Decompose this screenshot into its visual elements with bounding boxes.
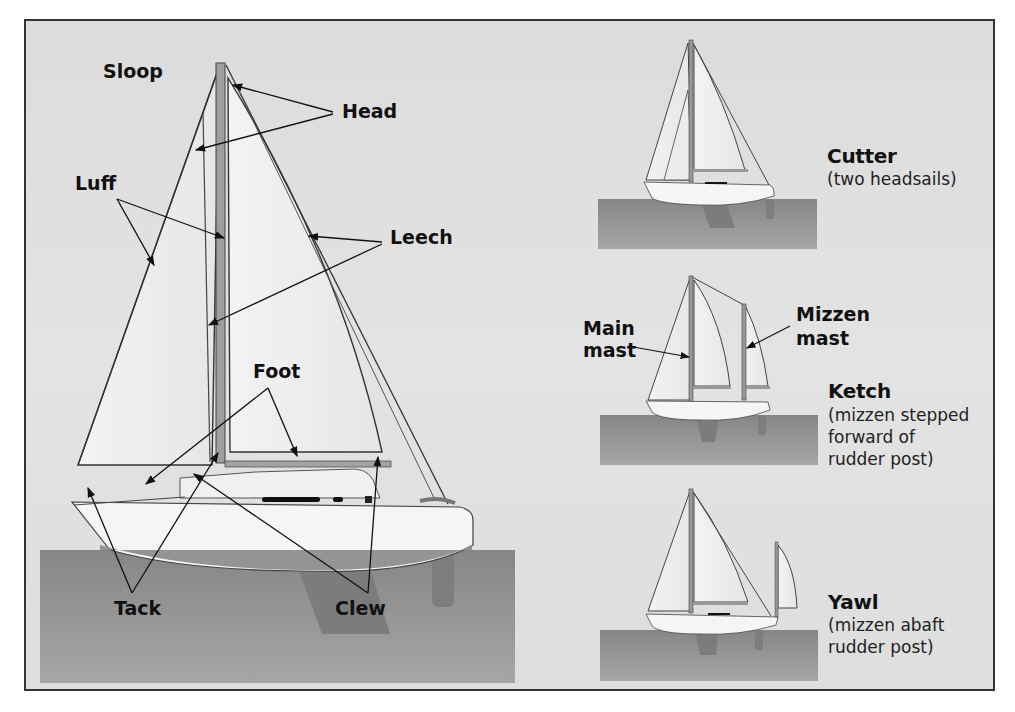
ketch-illustration: [600, 276, 818, 465]
label-mizzen-mast-line1: Mizzen: [796, 302, 870, 326]
ketch-desc-line3: rudder post): [828, 448, 969, 470]
label-mizzen-mast-line2: mast: [796, 326, 870, 350]
rig-title-yawl: Yawl: [828, 590, 878, 614]
label-main-mast: Main mast: [583, 317, 636, 361]
rig-description-cutter: (two headsails): [827, 168, 957, 190]
label-luff: Luff: [75, 172, 116, 194]
ketch-desc-line2: forward of: [828, 426, 969, 448]
ketch-desc-line1: (mizzen stepped: [828, 404, 969, 426]
rig-title-ketch: Ketch: [828, 379, 891, 403]
label-tack: Tack: [114, 597, 161, 619]
label-main-mast-line2: mast: [583, 339, 636, 361]
cutter-illustration: [598, 40, 817, 249]
label-leech: Leech: [390, 226, 453, 248]
label-clew: Clew: [335, 597, 386, 619]
label-mizzen-mast: Mizzen mast: [796, 302, 870, 350]
yawl-desc-line1: (mizzen abaft: [828, 614, 944, 636]
label-main-mast-line1: Main: [583, 317, 636, 339]
yawl-desc-line2: rudder post): [828, 636, 944, 658]
label-foot: Foot: [253, 360, 300, 382]
rig-title-cutter: Cutter: [827, 144, 897, 168]
yawl-illustration: [600, 489, 818, 681]
rig-description-yawl: (mizzen abaft rudder post): [828, 614, 944, 658]
rig-description-ketch: (mizzen stepped forward of rudder post): [828, 404, 969, 470]
label-head: Head: [342, 100, 397, 122]
sloop-title: Sloop: [103, 60, 163, 82]
